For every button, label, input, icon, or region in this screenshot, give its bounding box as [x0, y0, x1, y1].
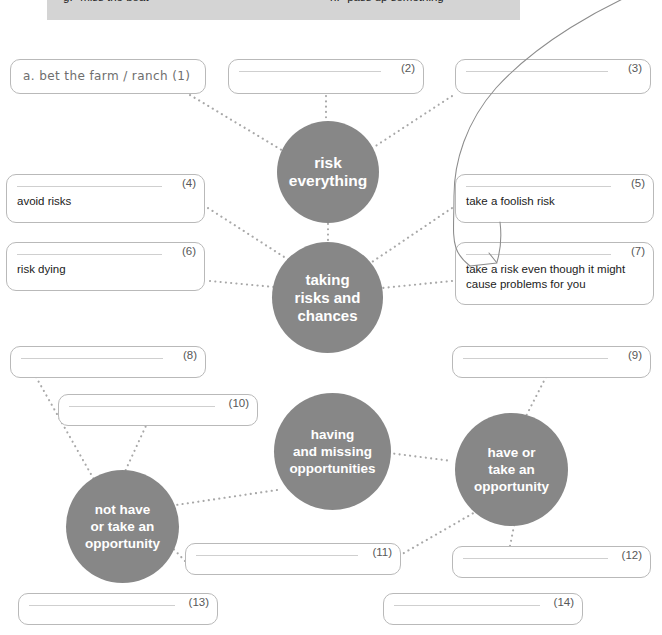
- word-bank-entry-g: g. miss the boat: [63, 0, 149, 6]
- answer-box-6-number: (6): [182, 243, 196, 260]
- answer-box-14[interactable]: (14): [383, 593, 583, 625]
- connector-box4-taking-risks: [208, 208, 292, 262]
- bubble-risk-everything[interactable]: risk everything: [277, 121, 379, 223]
- connector-box1-risk-everything: [190, 95, 285, 152]
- bubble-not-have-label: not have or take an opportunity: [81, 501, 164, 552]
- answer-box-10-blank-row: (10): [59, 395, 257, 412]
- answer-box-7-number: (7): [631, 243, 645, 260]
- answer-box-13-blank-row: (13): [19, 594, 217, 611]
- answer-box-7-blank-line[interactable]: [466, 254, 611, 255]
- bubble-having-missing-label: having and missing opportunities: [285, 426, 379, 477]
- answer-box-3-blank-row: (3): [456, 60, 650, 77]
- answer-box-1-handwriting: a. bet the farm / ranch (1): [11, 69, 190, 84]
- answer-box-14-number: (14): [554, 594, 574, 611]
- answer-box-13[interactable]: (13): [18, 593, 218, 625]
- answer-box-10-number: (10): [229, 395, 249, 412]
- bubble-have-take-label: have or take an opportunity: [470, 444, 553, 495]
- answer-box-9-number: (9): [628, 347, 642, 364]
- bubble-risk-everything-label: risk everything: [285, 154, 371, 190]
- answer-box-2[interactable]: (2): [228, 59, 424, 94]
- answer-box-9-blank-row: (9): [453, 347, 650, 364]
- answer-box-12-blank-line[interactable]: [463, 558, 608, 559]
- annotation-curve-long: [454, 0, 662, 266]
- answer-box-5[interactable]: (5) take a foolish risk: [455, 174, 654, 223]
- answer-box-3[interactable]: (3): [455, 59, 651, 94]
- answer-box-11[interactable]: (11): [185, 543, 401, 575]
- worksheet-page: g. miss the boat n. pass up something: [0, 0, 662, 635]
- answer-box-13-blank-line[interactable]: [29, 605, 175, 606]
- connector-box7-taking-risks: [372, 281, 452, 289]
- answer-box-14-blank-line[interactable]: [394, 605, 540, 606]
- answer-box-7-answer: take a risk even though it might cause p…: [456, 260, 653, 292]
- word-bank-text-n: pass up something: [347, 0, 444, 3]
- answer-box-6[interactable]: (6) risk dying: [6, 242, 205, 291]
- answer-box-8-blank-row: (8): [11, 347, 205, 364]
- answer-box-8-number: (8): [183, 347, 197, 364]
- answer-box-7[interactable]: (7) take a risk even though it might cau…: [455, 242, 654, 305]
- answer-box-5-answer: take a foolish risk: [456, 192, 653, 209]
- answer-box-5-blank-row: (5): [456, 175, 653, 192]
- answer-box-8-blank-line[interactable]: [21, 358, 163, 359]
- answer-box-2-blank-row: (2): [229, 60, 423, 77]
- answer-box-11-number: (11): [372, 544, 392, 561]
- word-bank-row: g. miss the boat n. pass up something: [63, 0, 504, 6]
- connector-havingmissing-havetake: [389, 453, 452, 461]
- connector-box8-nothave: [36, 377, 96, 483]
- bubble-have-take[interactable]: have or take an opportunity: [455, 413, 568, 526]
- answer-box-11-blank-line[interactable]: [196, 555, 358, 556]
- answer-box-6-blank-line[interactable]: [17, 254, 162, 255]
- answer-box-3-blank-line[interactable]: [466, 71, 608, 72]
- answer-box-3-number: (3): [628, 60, 642, 77]
- answer-box-12[interactable]: (12): [452, 546, 651, 578]
- connector-box3-risk-everything: [371, 96, 452, 149]
- answer-box-4[interactable]: (4) avoid risks: [6, 174, 205, 223]
- answer-box-5-number: (5): [631, 175, 645, 192]
- answer-box-8[interactable]: (8): [10, 346, 206, 378]
- connector-havingmissing-nothave: [176, 490, 277, 505]
- answer-box-6-answer: risk dying: [7, 260, 204, 277]
- answer-box-10-blank-line[interactable]: [69, 406, 215, 407]
- word-bank-entry-n: n. pass up something: [330, 0, 444, 6]
- connector-box10-nothave: [122, 417, 150, 478]
- answer-box-2-number: (2): [401, 60, 415, 77]
- answer-box-1[interactable]: a. bet the farm / ranch (1): [10, 59, 206, 94]
- answer-box-4-blank-line[interactable]: [17, 186, 162, 187]
- answer-box-11-blank-row: (11): [186, 544, 400, 561]
- answer-box-4-blank-row: (4): [7, 175, 204, 192]
- bubble-taking-risks[interactable]: taking risks and chances: [272, 242, 383, 353]
- answer-box-7-blank-row: (7): [456, 243, 653, 260]
- answer-box-9-blank-line[interactable]: [463, 358, 608, 359]
- word-bank-letter-n: n.: [330, 0, 344, 6]
- answer-box-14-blank-row: (14): [384, 594, 582, 611]
- word-bank-letter-g: g.: [63, 0, 77, 6]
- answer-box-4-number: (4): [182, 175, 196, 192]
- bubble-not-have[interactable]: not have or take an opportunity: [66, 470, 179, 583]
- answer-box-13-number: (13): [189, 594, 209, 611]
- answer-box-4-answer: avoid risks: [7, 192, 204, 209]
- bubble-taking-risks-label: taking risks and chances: [291, 271, 365, 325]
- word-bank-text-g: miss the boat: [80, 0, 148, 3]
- answer-box-12-number: (12): [622, 547, 642, 564]
- bubble-having-missing[interactable]: having and missing opportunities: [274, 393, 391, 510]
- answer-box-2-blank-line[interactable]: [239, 71, 381, 72]
- answer-box-9[interactable]: (9): [452, 346, 651, 378]
- connector-box9-havetake: [525, 377, 546, 418]
- answer-box-6-blank-row: (6): [7, 243, 204, 260]
- connector-box5-taking-risks: [372, 208, 452, 262]
- word-bank-strip: g. miss the boat n. pass up something: [47, 0, 520, 20]
- answer-box-10[interactable]: (10): [58, 394, 258, 426]
- answer-box-5-blank-line[interactable]: [466, 186, 611, 187]
- answer-box-12-blank-row: (12): [453, 547, 650, 564]
